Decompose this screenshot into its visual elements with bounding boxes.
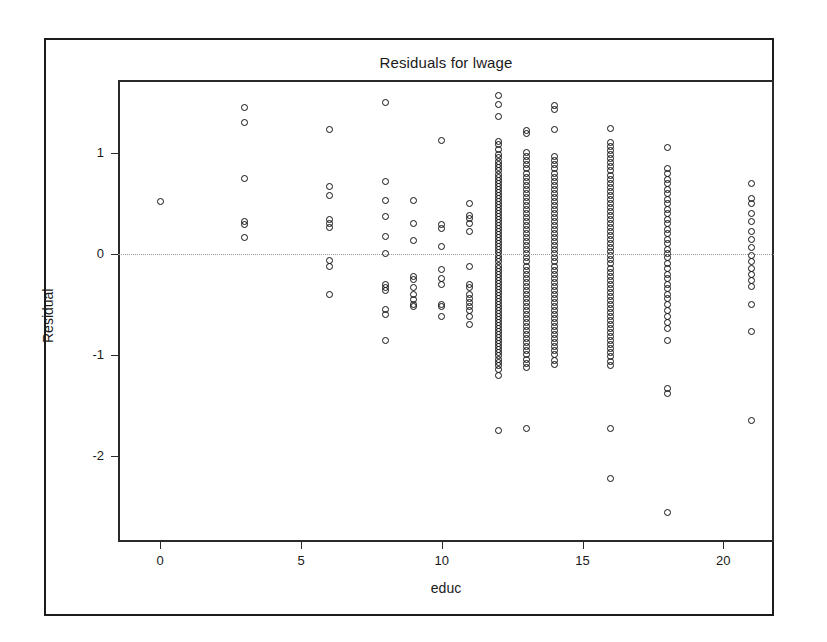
x-tick-mark — [160, 542, 161, 549]
x-tick-mark — [583, 542, 584, 549]
x-tick-label: 20 — [698, 553, 748, 568]
x-tick-label: 15 — [558, 553, 608, 568]
y-tick-label: -2 — [56, 448, 104, 463]
x-tick-mark — [723, 542, 724, 549]
y-tick-label: -1 — [56, 347, 104, 362]
y-tick-mark — [111, 254, 118, 255]
x-tick-mark — [442, 542, 443, 549]
chart-title: Residuals for lwage — [118, 54, 774, 71]
x-tick-mark — [301, 542, 302, 549]
x-axis-title: educ — [118, 580, 774, 596]
y-tick-label: 1 — [56, 145, 104, 160]
y-axis-title: Residual — [40, 289, 56, 343]
scatter-plot-figure: Residuals for lwage 0510152010-1-2 educ … — [0, 0, 827, 642]
x-tick-label: 10 — [417, 553, 467, 568]
x-tick-label: 0 — [135, 553, 185, 568]
y-tick-mark — [111, 355, 118, 356]
x-tick-label: 5 — [276, 553, 326, 568]
zero-reference-line — [118, 254, 774, 255]
y-tick-mark — [111, 153, 118, 154]
plot-frame-border — [118, 80, 774, 542]
y-tick-label: 0 — [56, 246, 104, 261]
y-tick-mark — [111, 456, 118, 457]
